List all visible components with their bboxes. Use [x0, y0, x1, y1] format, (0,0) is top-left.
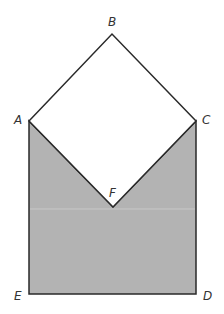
geometry-diagram: B A C F E D	[0, 0, 224, 314]
label-a: A	[13, 113, 22, 127]
label-b: B	[108, 15, 116, 29]
label-e: E	[14, 289, 22, 303]
label-f: F	[109, 186, 117, 200]
label-d: D	[203, 289, 212, 303]
label-c: C	[202, 113, 211, 127]
